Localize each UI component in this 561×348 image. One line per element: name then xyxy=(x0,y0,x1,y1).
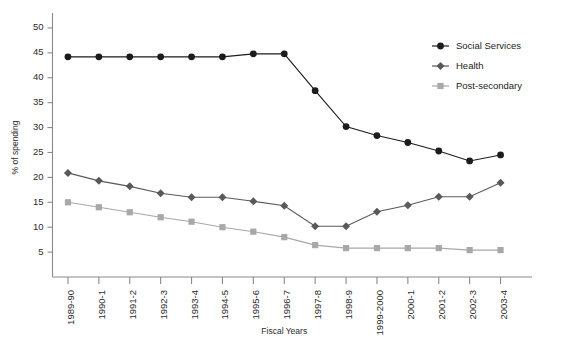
series-social-services xyxy=(65,50,504,164)
data-point xyxy=(373,208,381,216)
x-tick-label: 1998-9 xyxy=(343,290,354,320)
chart-legend: Social ServicesHealthPost-secondary xyxy=(432,40,522,91)
data-point xyxy=(281,50,288,57)
data-point xyxy=(404,201,412,209)
data-point xyxy=(249,197,257,205)
y-tick-label: 40 xyxy=(33,71,44,82)
data-point xyxy=(280,202,288,210)
data-point xyxy=(497,152,504,159)
data-point xyxy=(250,50,257,57)
legend-marker xyxy=(437,43,444,50)
data-point xyxy=(436,245,442,251)
x-tick-label: 1989-90 xyxy=(65,290,76,325)
y-axis-tick-group: 5101520253035404550 xyxy=(33,21,53,256)
data-point xyxy=(435,193,443,201)
x-tick-label: 2002-3 xyxy=(467,290,478,320)
y-axis-title: % of spending xyxy=(10,120,20,174)
data-point xyxy=(374,245,380,251)
data-point xyxy=(219,224,225,230)
x-tick-label: 2001-2 xyxy=(436,290,447,320)
data-point xyxy=(281,234,287,240)
data-point xyxy=(312,87,319,94)
data-point xyxy=(466,193,474,201)
data-point xyxy=(435,148,442,155)
data-point xyxy=(466,158,473,165)
y-tick-label: 25 xyxy=(33,146,44,157)
legend-item-label[interactable]: Social Services xyxy=(456,40,521,51)
x-axis-title: Fiscal Years xyxy=(261,326,307,336)
y-tick-label: 15 xyxy=(33,196,44,207)
data-point xyxy=(250,229,256,235)
data-point xyxy=(157,53,164,60)
data-point xyxy=(311,222,319,230)
y-tick-label: 30 xyxy=(33,121,44,132)
x-tick-label: 2003-4 xyxy=(498,290,509,320)
y-tick-label: 5 xyxy=(38,246,43,257)
y-tick-label: 45 xyxy=(33,46,44,57)
data-point xyxy=(126,53,133,60)
x-tick-label: 2000-1 xyxy=(405,290,416,320)
legend-marker xyxy=(437,62,445,70)
data-point xyxy=(342,222,350,230)
line-chart-plot: 5101520253035404550 1989-901990-11991-21… xyxy=(0,0,561,348)
x-tick-label: 1990-1 xyxy=(96,290,107,320)
legend-item-label[interactable]: Post-secondary xyxy=(456,80,522,91)
x-tick-label: 1996-7 xyxy=(281,290,292,320)
series-group xyxy=(64,50,505,253)
series-line xyxy=(68,173,501,226)
data-point xyxy=(405,245,411,251)
data-point xyxy=(188,193,196,201)
data-point xyxy=(404,139,411,146)
data-point xyxy=(467,247,473,253)
data-point xyxy=(65,199,71,205)
data-point xyxy=(95,177,103,185)
data-point xyxy=(343,123,350,130)
y-tick-label: 35 xyxy=(33,96,44,107)
series-health xyxy=(64,169,505,230)
x-tick-label: 1994-5 xyxy=(219,290,230,320)
series-line xyxy=(68,54,501,161)
legend-item-label[interactable]: Health xyxy=(456,60,483,71)
data-point xyxy=(126,182,134,190)
data-point xyxy=(65,53,72,60)
data-point xyxy=(218,193,226,201)
y-tick-label: 20 xyxy=(33,171,44,182)
y-tick-label: 10 xyxy=(33,221,44,232)
legend-marker xyxy=(437,83,443,89)
chart-container: 5101520253035404550 1989-901990-11991-21… xyxy=(0,0,561,348)
data-point xyxy=(374,132,381,139)
data-point xyxy=(497,179,505,187)
data-point xyxy=(127,209,133,215)
data-point xyxy=(96,204,102,210)
data-point xyxy=(64,169,72,177)
x-tick-label: 1993-4 xyxy=(189,290,200,320)
data-point xyxy=(157,189,165,197)
x-tick-label: 1995-6 xyxy=(250,290,261,320)
data-point xyxy=(343,245,349,251)
x-tick-label: 1999-2000 xyxy=(374,290,385,335)
data-point xyxy=(158,214,164,220)
x-tick-label: 1997-8 xyxy=(312,290,323,320)
x-tick-label: 1991-2 xyxy=(127,290,138,320)
data-point xyxy=(188,53,195,60)
x-tick-label: 1992-3 xyxy=(158,290,169,320)
data-point xyxy=(188,219,194,225)
data-point xyxy=(312,242,318,248)
data-point xyxy=(497,247,503,253)
data-point xyxy=(219,53,226,60)
y-tick-label: 50 xyxy=(33,21,44,32)
data-point xyxy=(95,53,102,60)
